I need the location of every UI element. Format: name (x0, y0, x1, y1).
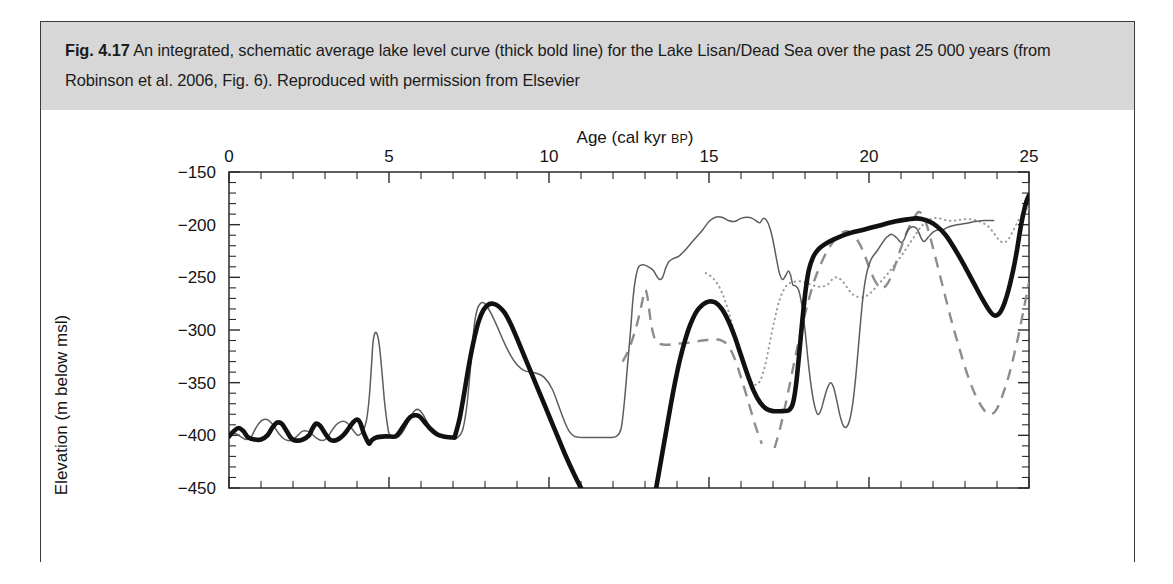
x-tick-label: 5 (384, 147, 393, 166)
series-path-dashed (623, 290, 762, 444)
y-tick-label: −300 (178, 321, 216, 340)
x-axis-title: Age (cal kyr BP) (577, 128, 694, 147)
y-tick-label: −450 (178, 479, 216, 498)
y-tick-label: −350 (178, 374, 216, 393)
x-axis-tick-labels: 0510152025 (224, 147, 1038, 166)
x-axis-title-main: Age (cal kyr (577, 128, 671, 147)
x-axis-title-smallcaps: BP (671, 132, 688, 146)
series-path-solid-bold (656, 195, 1029, 488)
figure-label: Fig. 4.17 (65, 41, 130, 59)
y-tick-label: −250 (178, 268, 216, 287)
series-path-solid-thin (229, 217, 994, 441)
x-tick-label: 0 (224, 147, 233, 166)
x-tick-label: 10 (540, 147, 559, 166)
y-tick-label: −200 (178, 216, 216, 235)
y-tick-label: −400 (178, 426, 216, 445)
series-path-dashed (775, 212, 1029, 448)
figure-caption-band: Fig. 4.17 An integrated, schematic avera… (41, 22, 1134, 110)
x-axis-title-tail: ) (688, 128, 694, 147)
y-axis-tick-labels: −150−200−250−300−350−400−450 (178, 163, 216, 498)
lake-level-chart: Age (cal kyr BP) Elevation (m below msl)… (41, 110, 1134, 563)
y-axis-title: Elevation (m below msl) (52, 315, 71, 495)
x-tick-label: 15 (700, 147, 719, 166)
data-series-layer (229, 195, 1029, 488)
y-tick-label: −150 (178, 163, 216, 182)
figure-caption-body: An integrated, schematic average lake le… (65, 41, 1051, 89)
figure-caption-text: Fig. 4.17 An integrated, schematic avera… (65, 35, 1110, 95)
plot-area: Age (cal kyr BP) Elevation (m below msl)… (41, 110, 1134, 563)
figure-frame: Fig. 4.17 An integrated, schematic avera… (40, 21, 1135, 562)
x-tick-label: 25 (1020, 147, 1039, 166)
x-tick-label: 20 (860, 147, 879, 166)
